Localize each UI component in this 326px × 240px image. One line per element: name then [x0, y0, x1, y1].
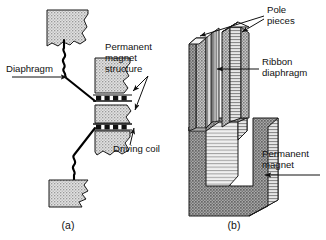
lower-diaphragm-block: [49, 180, 88, 207]
right-pole-piece: [222, 22, 249, 127]
pole-pieces-label-line1: Pole: [267, 4, 286, 15]
permanent-magnet-label-line1: Permanent: [262, 148, 309, 159]
caption-a: (a): [62, 219, 75, 231]
ribbon-diaphragm-label-line2: diaphragm: [262, 67, 307, 78]
diaphragm-label-text: Diaphragm: [6, 63, 53, 74]
driving-coil-label-text: Driving coil: [113, 143, 160, 154]
label-pole-pieces: Pole pieces: [200, 4, 295, 36]
ribbon-diaphragm-strip: [212, 28, 219, 122]
permanent-magnet-label-line2: magnet: [262, 159, 294, 170]
pms-leader-lower: [135, 76, 148, 110]
lower-magnet-block: [95, 105, 131, 123]
panel-a: Diaphragm Permanent magnet structure Dri…: [6, 10, 160, 231]
pms-label-line1: Permanent: [105, 41, 152, 52]
pms-leader-upper: [133, 76, 148, 91]
left-pole-piece: [189, 33, 212, 131]
panel-b: Pole pieces Ribbon diaphragm Permanent m…: [189, 4, 320, 231]
diaphragm-wire-upper: [63, 40, 95, 101]
label-diaphragm: Diaphragm: [6, 63, 67, 77]
figure-container: Diaphragm Permanent magnet structure Dri…: [0, 0, 326, 240]
upper-driving-coil: [93, 95, 132, 101]
pole-pieces-label-line2: pieces: [267, 15, 295, 26]
pms-label-line3: structure: [105, 63, 142, 74]
figure-svg: Diaphragm Permanent magnet structure Dri…: [0, 0, 326, 240]
diaphragm-wire-lower: [73, 128, 95, 183]
lower-driving-coil: [93, 124, 132, 130]
ribbon-diaphragm-label-line1: Ribbon: [262, 56, 292, 67]
upper-diaphragm-block: [47, 10, 88, 46]
caption-b: (b): [228, 219, 241, 231]
pms-label-line2: magnet: [105, 52, 137, 63]
